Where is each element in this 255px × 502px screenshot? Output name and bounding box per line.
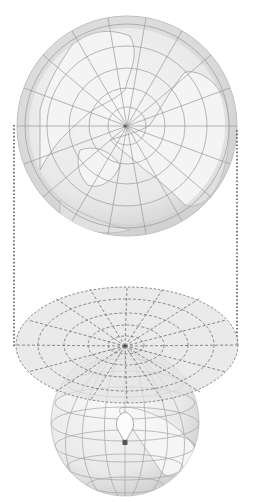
tangent-point bbox=[123, 344, 126, 347]
projection-diagram bbox=[0, 0, 255, 502]
projection-plane bbox=[16, 287, 238, 403]
north-pole-dot bbox=[123, 124, 126, 127]
polar-map bbox=[17, 16, 237, 236]
